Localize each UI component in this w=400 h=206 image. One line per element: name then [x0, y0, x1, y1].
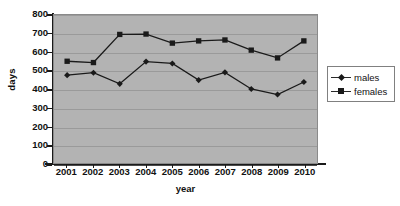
y-tick-mark: [47, 127, 52, 129]
y-tick-mark: [47, 164, 52, 166]
x-tick-mark: [119, 164, 120, 168]
plot-area: [53, 14, 318, 164]
data-point-females-2009: [275, 55, 280, 60]
data-point-females-2004: [143, 31, 148, 36]
y-tick-label: 300: [14, 103, 48, 113]
y-tick-label: 400: [14, 84, 48, 94]
series-line-males: [67, 62, 304, 95]
data-point-females-2007: [222, 37, 227, 42]
y-tick-mark: [47, 52, 52, 54]
data-point-females-2005: [170, 40, 175, 45]
x-tick-mark: [199, 164, 200, 168]
y-tick-label: 800: [14, 9, 48, 19]
legend-label-males: males: [351, 72, 379, 83]
x-axis-tick-labels: 2001200220032004200520062007200820092010: [0, 166, 400, 182]
y-tick-mark: [47, 33, 52, 35]
data-point-females-2002: [91, 60, 96, 65]
data-point-females-2003: [117, 32, 122, 37]
data-point-males-2010: [301, 79, 307, 85]
data-point-females-2006: [196, 38, 201, 43]
y-tick-mark: [47, 89, 52, 91]
series-males: [64, 59, 307, 98]
y-tick-label: 200: [14, 122, 48, 132]
x-tick-mark: [93, 164, 94, 168]
x-tick-mark: [278, 164, 279, 168]
series-females: [64, 31, 306, 65]
x-tick-mark: [305, 164, 306, 168]
series-layer: [54, 15, 317, 163]
data-point-males-2005: [169, 60, 175, 66]
data-point-males-2007: [222, 69, 228, 75]
line-chart: days 0100200300400500600700800 200120022…: [0, 0, 400, 206]
data-point-males-2002: [90, 70, 96, 76]
data-point-females-2010: [301, 38, 306, 43]
series-line-females: [67, 34, 304, 62]
legend-marker-square-icon: [331, 85, 351, 97]
data-point-males-2001: [64, 72, 70, 78]
data-point-males-2009: [274, 91, 280, 97]
y-tick-label: 700: [14, 28, 48, 38]
data-point-males-2008: [248, 86, 254, 92]
y-tick-mark: [47, 108, 52, 110]
data-point-females-2008: [249, 47, 254, 52]
x-tick-mark: [66, 164, 67, 168]
data-point-males-2006: [196, 77, 202, 83]
legend-item-females[interactable]: females: [330, 84, 392, 98]
legend-marker-diamond-icon: [331, 71, 351, 83]
data-point-females-2001: [64, 59, 69, 64]
chart-legend: males females: [327, 66, 395, 102]
y-tick-mark: [47, 14, 52, 16]
y-tick-mark: [47, 145, 52, 147]
x-tick-mark: [252, 164, 253, 168]
legend-label-females: females: [351, 86, 387, 97]
y-tick-label: 100: [14, 140, 48, 150]
y-tick-mark: [47, 70, 52, 72]
x-tick-mark: [172, 164, 173, 168]
y-tick-label: 500: [14, 65, 48, 75]
legend-item-males[interactable]: males: [330, 70, 392, 84]
y-tick-label: 600: [14, 47, 48, 57]
x-tick-mark: [146, 164, 147, 168]
x-axis-title: year: [53, 183, 318, 194]
x-tick-mark: [225, 164, 226, 168]
